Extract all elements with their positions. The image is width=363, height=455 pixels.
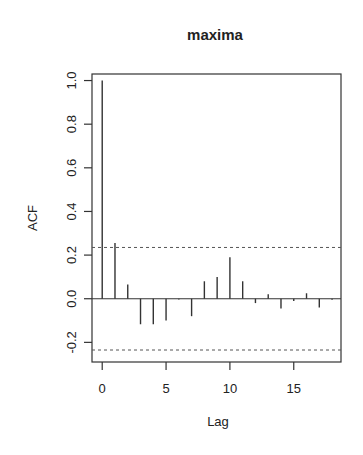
x-tick-label: 0 <box>99 381 106 396</box>
y-tick-label: 0.2 <box>64 246 79 264</box>
chart-title: maxima <box>187 26 244 43</box>
y-tick-label: 0.8 <box>64 115 79 133</box>
plot-frame <box>92 74 341 362</box>
acf-chart: maxima 051015-0.20.00.20.40.60.81.0 Lag … <box>0 0 363 455</box>
y-tick-label: 1.0 <box>64 72 79 90</box>
x-tick-label: 5 <box>162 381 169 396</box>
x-tick-label: 10 <box>223 381 237 396</box>
plot-area: 051015-0.20.00.20.40.60.81.0 <box>64 72 341 396</box>
y-axis-label: ACF <box>25 205 40 231</box>
y-tick-label: 0.0 <box>64 290 79 308</box>
y-tick-label: 0.4 <box>64 202 79 220</box>
x-tick-label: 15 <box>287 381 301 396</box>
x-axis-label: Lag <box>207 414 229 429</box>
y-tick-label: -0.2 <box>64 331 79 353</box>
y-tick-label: 0.6 <box>64 159 79 177</box>
